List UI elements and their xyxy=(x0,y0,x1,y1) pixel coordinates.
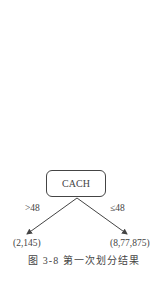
leaf-right: (8,77,875) xyxy=(110,238,150,248)
edge-label-right: ≤48 xyxy=(110,203,125,213)
root-node-cach: CACH xyxy=(46,170,106,197)
leaf-left: (2,145) xyxy=(13,238,41,248)
root-node-label: CACH xyxy=(62,178,90,189)
figure-caption: 图 3-8 第一次划分结果 xyxy=(0,252,168,267)
tree-edges xyxy=(0,0,168,295)
edge-label-left: >48 xyxy=(25,203,40,213)
